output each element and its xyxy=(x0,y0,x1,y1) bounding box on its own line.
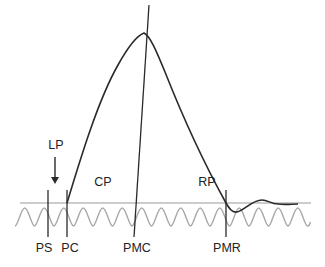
label-pmr: PMR xyxy=(213,242,241,255)
oscillation-wave xyxy=(15,208,311,226)
label-lp: LP xyxy=(48,139,63,152)
label-rp: RP xyxy=(198,176,215,189)
label-cp: CP xyxy=(94,176,111,189)
label-pc: PC xyxy=(61,242,78,255)
lp-arrow-icon xyxy=(51,177,59,184)
label-ps: PS xyxy=(36,242,53,255)
waveform-diagram xyxy=(0,0,325,267)
label-pmc: PMC xyxy=(123,242,151,255)
marker-pmc xyxy=(134,5,149,237)
